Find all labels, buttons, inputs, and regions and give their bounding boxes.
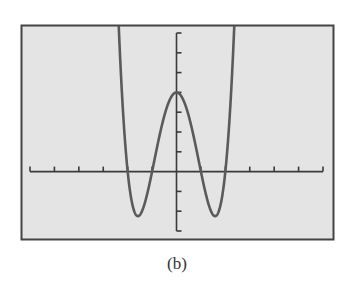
figure-caption: (b) — [0, 254, 354, 274]
graphing-calculator-screen — [0, 0, 354, 293]
